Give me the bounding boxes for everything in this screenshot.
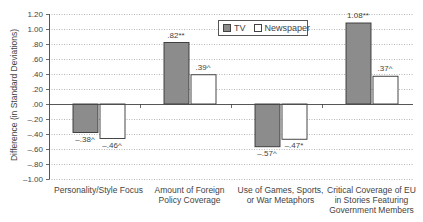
y-tick-label: –.40: [13, 130, 43, 139]
value-label: 1.08**: [338, 11, 378, 20]
y-tick-label: –1.00: [13, 175, 43, 184]
bar-newspaper-2: [282, 104, 307, 139]
legend-label-tv: TV: [234, 23, 246, 33]
legend-label-newspaper: Newspaper: [265, 23, 311, 33]
legend-item-newspaper: Newspaper: [254, 23, 311, 33]
bar-newspaper-0: [100, 104, 125, 139]
x-category-label: Use of Games, Sports,or War Metaphors: [235, 185, 327, 205]
bar-tv-0: [73, 104, 98, 133]
bar-newspaper-3: [373, 76, 398, 104]
value-label: .37^: [365, 64, 405, 73]
y-tick-label: 1.20: [13, 10, 43, 19]
y-tick-label: 1.00: [13, 25, 43, 34]
y-tick-label: –.20: [13, 115, 43, 124]
y-tick-label: –.80: [13, 160, 43, 169]
value-label: –.47*: [274, 141, 314, 150]
value-label: .39^: [183, 63, 223, 72]
newspaper-swatch-icon: [254, 24, 262, 32]
y-tick-label: .20: [13, 85, 43, 94]
bar-newspaper-1: [191, 75, 216, 104]
bar-chart: Difference (in Standard Deviations) 1.20…: [0, 0, 423, 222]
bar-tv-1: [164, 43, 189, 105]
legend-item-tv: TV: [223, 23, 246, 33]
y-tick-label: .40: [13, 70, 43, 79]
x-category-label: Amount of ForeignPolicy Coverage: [144, 185, 236, 205]
y-tick-label: –.60: [13, 145, 43, 154]
value-label: –.46^: [92, 141, 132, 150]
y-tick-label: .80: [13, 40, 43, 49]
x-category-label: Personality/Style Focus: [53, 185, 145, 195]
x-category-label: Critical Coverage of EUin Stories Featur…: [326, 185, 418, 215]
tv-swatch-icon: [223, 24, 231, 32]
value-label: .82**: [156, 31, 196, 40]
y-axis-title: Difference (in Standard Deviations): [9, 29, 19, 161]
y-tick-label: .00: [13, 100, 43, 109]
y-tick-label: .60: [13, 55, 43, 64]
legend: TV Newspaper: [218, 20, 308, 36]
